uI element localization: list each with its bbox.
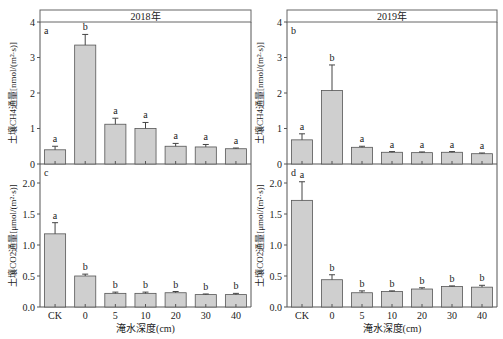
bar-group: b bbox=[322, 52, 343, 164]
y-tick-label: 1.5 bbox=[270, 209, 283, 220]
panel-title: 2019年 bbox=[377, 10, 407, 22]
x-tick-label: 20 bbox=[171, 310, 181, 321]
significance-letter: a bbox=[143, 109, 148, 120]
significance-letter: a bbox=[53, 133, 58, 144]
y-tick-label: 1.5 bbox=[23, 209, 36, 220]
bar bbox=[75, 276, 96, 307]
bar-group: b20 bbox=[165, 279, 186, 322]
bar-group: a bbox=[382, 139, 403, 164]
panel-d: 0.00.51.01.52.0土壤CO2通量[μmol/(m²·s)]daCKb… bbox=[254, 164, 497, 335]
bar-group: b5 bbox=[352, 278, 373, 321]
panel-letter: c bbox=[44, 167, 49, 178]
significance-letter: b bbox=[450, 273, 455, 284]
significance-letter: b bbox=[203, 281, 208, 292]
y-tick-label: 0.0 bbox=[23, 302, 36, 313]
y-tick-label: 0 bbox=[277, 159, 282, 170]
figure: 2018年01234土壤CH4通量[nmol/(m²·s)]aabaaaaa20… bbox=[0, 0, 503, 339]
panel-letter: d bbox=[291, 167, 296, 178]
significance-letter: b bbox=[330, 52, 335, 63]
significance-letter: b bbox=[173, 279, 178, 290]
y-tick-label: 2.0 bbox=[270, 178, 283, 189]
y-axis-label: 土壤CH4通量[nmol/(m²·s)] bbox=[254, 42, 265, 144]
y-tick-label: 4 bbox=[30, 17, 35, 28]
y-tick-label: 1 bbox=[30, 123, 35, 134]
bar-group: b40 bbox=[225, 280, 246, 321]
y-tick-label: 2 bbox=[30, 88, 35, 99]
y-tick-label: 1.0 bbox=[270, 240, 283, 251]
bar-group: b10 bbox=[382, 278, 403, 321]
x-axis-title: 淹水深度(cm) bbox=[116, 322, 175, 335]
y-tick-label: 0.0 bbox=[270, 302, 283, 313]
bar-group: b bbox=[75, 21, 96, 164]
bar-group: b40 bbox=[472, 272, 493, 321]
bar bbox=[45, 234, 66, 307]
y-tick-label: 0.5 bbox=[270, 271, 283, 282]
bar-group: a bbox=[195, 131, 216, 164]
panel-letter: b bbox=[291, 25, 296, 36]
bar-group: a bbox=[105, 105, 126, 164]
bar-group: b20 bbox=[412, 275, 433, 321]
significance-letter: b bbox=[330, 262, 335, 273]
bar-group: a bbox=[165, 130, 186, 164]
x-tick-label: 10 bbox=[387, 310, 397, 321]
x-tick-label: 5 bbox=[113, 310, 118, 321]
significance-letter: a bbox=[234, 135, 239, 146]
bar bbox=[292, 200, 313, 307]
chart-canvas: 2018年01234土壤CH4通量[nmol/(m²·s)]aabaaaaa20… bbox=[0, 0, 503, 339]
significance-letter: b bbox=[360, 278, 365, 289]
panel-b: 2019年01234土壤CH4通量[nmol/(m²·s)]babaaaaa bbox=[254, 10, 497, 170]
significance-letter: a bbox=[204, 131, 209, 142]
y-tick-label: 2 bbox=[277, 88, 282, 99]
significance-letter: a bbox=[113, 105, 118, 116]
bar bbox=[442, 287, 463, 307]
bar-group: a bbox=[135, 109, 156, 164]
bar-group: a bbox=[352, 133, 373, 164]
panel-title: 2018年 bbox=[131, 10, 161, 22]
significance-letter: a bbox=[420, 139, 425, 150]
x-tick-label: 0 bbox=[83, 310, 88, 321]
x-tick-label: 10 bbox=[141, 310, 151, 321]
significance-letter: a bbox=[360, 133, 365, 144]
panel-a: 2018年01234土壤CH4通量[nmol/(m²·s)]aabaaaaa bbox=[7, 10, 251, 170]
significance-letter: a bbox=[173, 130, 178, 141]
significance-letter: b bbox=[143, 279, 148, 290]
bar bbox=[105, 124, 126, 164]
significance-letter: a bbox=[480, 140, 485, 151]
y-tick-label: 2.0 bbox=[23, 178, 36, 189]
x-tick-label: CK bbox=[48, 310, 63, 321]
significance-letter: b bbox=[233, 280, 238, 291]
y-tick-label: 1.0 bbox=[23, 240, 36, 251]
x-tick-label: 0 bbox=[330, 310, 335, 321]
bar bbox=[135, 129, 156, 165]
significance-letter: b bbox=[480, 272, 485, 283]
panel-c: 0.00.51.01.52.0土壤CO2通量[μmol/(m²·s)]caCKb… bbox=[7, 164, 251, 335]
bar-group: b30 bbox=[195, 281, 216, 321]
bar-group: a bbox=[292, 121, 313, 164]
significance-letter: b bbox=[83, 21, 88, 32]
panel-letter: a bbox=[44, 25, 49, 36]
bar-group: a bbox=[472, 140, 493, 164]
y-axis-label: 土壤CH4通量[nmol/(m²·s)] bbox=[7, 42, 18, 144]
x-tick-label: 40 bbox=[231, 310, 241, 321]
bar bbox=[322, 280, 343, 307]
bar-group: a bbox=[45, 133, 66, 164]
bar-group: b5 bbox=[105, 279, 126, 321]
bar-group: b10 bbox=[135, 279, 156, 321]
y-tick-label: 3 bbox=[277, 52, 282, 63]
significance-letter: b bbox=[83, 261, 88, 272]
y-tick-label: 4 bbox=[277, 17, 282, 28]
bar-group: aCK bbox=[45, 210, 66, 321]
x-tick-label: 20 bbox=[417, 310, 427, 321]
bar-group: b0 bbox=[322, 262, 343, 321]
bar bbox=[322, 91, 343, 164]
significance-letter: a bbox=[390, 139, 395, 150]
x-axis-title: 淹水深度(cm) bbox=[363, 322, 422, 335]
bar-group: a bbox=[412, 139, 433, 164]
significance-letter: a bbox=[53, 210, 58, 221]
bar-group: b0 bbox=[75, 261, 96, 321]
y-tick-label: 3 bbox=[30, 52, 35, 63]
y-axis-label: 土壤CO2通量[μmol/(m²·s)] bbox=[7, 184, 18, 287]
y-tick-label: 1 bbox=[277, 123, 282, 134]
x-tick-label: 30 bbox=[201, 310, 211, 321]
bar-group: b30 bbox=[442, 273, 463, 321]
